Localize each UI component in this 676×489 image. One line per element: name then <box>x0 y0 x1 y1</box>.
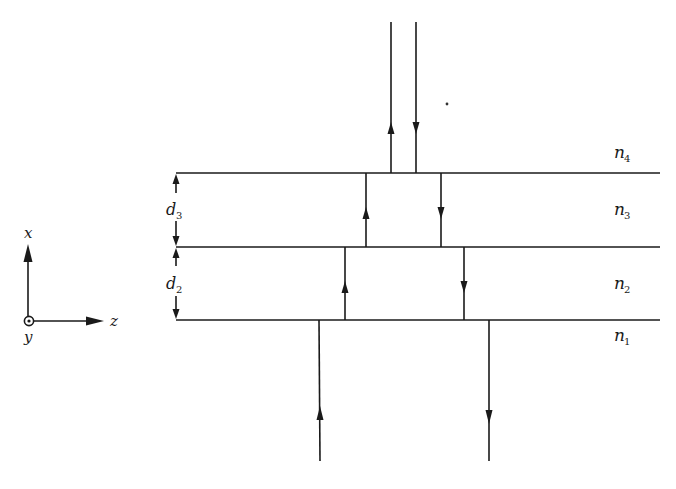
arrow-down-icon <box>486 410 493 424</box>
arrow-down-icon <box>461 281 468 293</box>
rays-n1 <box>317 320 493 461</box>
arrow-up-icon <box>388 122 395 134</box>
coordinate-axes: x z y <box>23 224 118 346</box>
arrow-down-icon <box>438 207 445 219</box>
rays-n2 <box>342 247 468 320</box>
arrow-up-icon <box>363 207 370 219</box>
y-axis-dot-icon <box>27 319 30 322</box>
interfaces <box>176 173 660 320</box>
arrow-up-icon <box>317 406 324 420</box>
n4-subscript: 4 <box>624 153 630 164</box>
d3-label: d <box>166 200 176 219</box>
arrow-up-icon <box>342 281 349 293</box>
n2-subscript: 2 <box>624 284 630 295</box>
d2-subscript: 2 <box>176 284 182 295</box>
thin-film-diagram: x z y d 3 d 2 n 4 n 3 n 2 n <box>0 0 676 489</box>
x-axis-arrow-icon <box>24 244 33 262</box>
rays-n4 <box>388 22 420 173</box>
d2-down-arrow-icon <box>173 309 180 319</box>
d2-up-arrow-icon <box>173 248 180 258</box>
x-axis-label: x <box>24 224 33 242</box>
ray-n1-up <box>319 320 320 461</box>
arrow-down-icon <box>413 122 420 134</box>
rays-n3 <box>363 173 445 247</box>
d3-up-arrow-icon <box>173 174 180 184</box>
y-axis-label: y <box>23 328 33 346</box>
z-axis-label: z <box>109 312 118 330</box>
n1-subscript: 1 <box>624 336 630 347</box>
z-axis-arrow-icon <box>86 317 104 326</box>
d3-subscript: 3 <box>176 210 182 221</box>
scan-artifact-dot <box>446 103 449 106</box>
n3-subscript: 3 <box>624 210 630 221</box>
d2-label: d <box>166 274 176 293</box>
d3-down-arrow-icon <box>173 236 180 246</box>
thickness-d2: d 2 <box>166 248 182 319</box>
thickness-d3: d 3 <box>166 174 182 246</box>
